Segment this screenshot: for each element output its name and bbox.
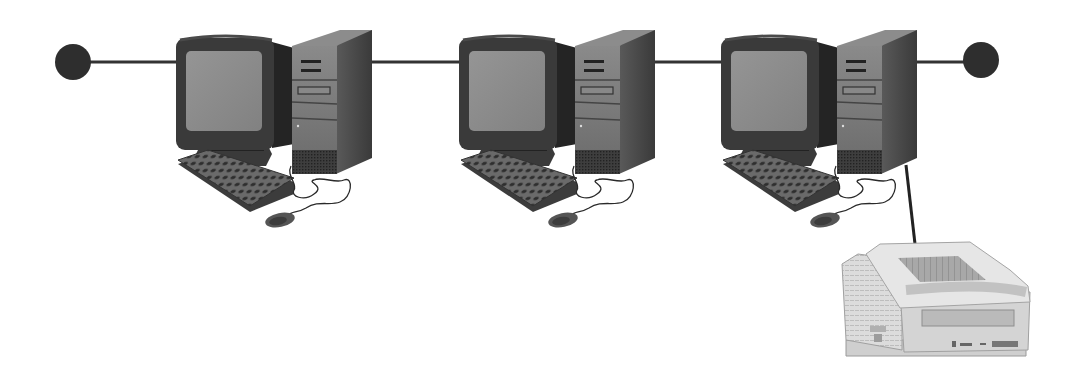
workstation-3[interactable] (721, 30, 917, 230)
left-terminator (55, 44, 91, 80)
right-terminator (963, 42, 999, 78)
printer[interactable] (842, 242, 1030, 356)
bus-network-diagram (0, 0, 1073, 378)
workstation-1[interactable] (176, 30, 372, 230)
workstation-2[interactable] (459, 30, 655, 230)
printer-cable (906, 165, 915, 244)
